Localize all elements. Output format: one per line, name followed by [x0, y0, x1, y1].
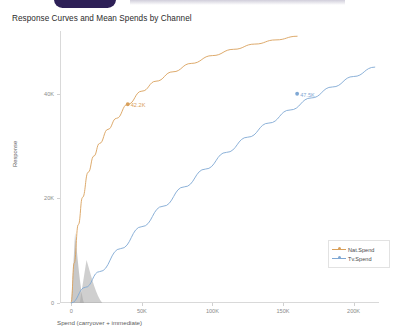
- brand-logo-pill[interactable]: [54, 0, 116, 8]
- legend-item-nat-spend[interactable]: Nat.Spend: [332, 245, 385, 254]
- x-tick-mark: [71, 303, 72, 306]
- mean-spend-value-label: 47.5K: [300, 92, 315, 98]
- mean-spend-marker[interactable]: [126, 102, 130, 106]
- x-tick-mark: [283, 303, 284, 306]
- chart-title: Response Curves and Mean Spends by Chann…: [12, 14, 192, 23]
- y-tick-mark: [57, 303, 60, 304]
- x-tick-label: 50K: [137, 308, 147, 314]
- mean-spend-value-label: 42.2K: [131, 102, 146, 108]
- y-tick-label: 40K: [44, 91, 54, 97]
- chart-card: Response Curves and Mean Spends by Chann…: [0, 9, 399, 331]
- x-tick-mark: [354, 303, 355, 306]
- x-tick-label: 0: [70, 308, 73, 314]
- legend-marker-icon: [332, 246, 346, 254]
- legend-marker-icon: [332, 255, 346, 263]
- legend-item-tv-spend[interactable]: Tv.Spend: [332, 254, 385, 263]
- x-tick-label: 200K: [347, 308, 360, 314]
- legend-label: Tv.Spend: [348, 256, 372, 262]
- mean-spend-marker[interactable]: [295, 92, 299, 96]
- response-curve-nat-spend: [71, 36, 297, 303]
- app-chrome-strip: [0, 0, 399, 9]
- x-axis-title: Spend (carryover + immediate): [57, 319, 142, 326]
- header-nav-strip: [130, 0, 345, 5]
- y-axis-title: Response: [12, 141, 18, 167]
- x-tick-mark: [142, 303, 143, 306]
- y-tick-label: 20K: [44, 195, 54, 201]
- y-tick-label: 0: [51, 300, 54, 306]
- chart-legend[interactable]: Nat.SpendTv.Spend: [328, 240, 390, 268]
- legend-label: Nat.Spend: [348, 247, 374, 253]
- x-tick-label: 150K: [276, 308, 289, 314]
- x-tick-mark: [212, 303, 213, 306]
- x-tick-label: 100K: [206, 308, 219, 314]
